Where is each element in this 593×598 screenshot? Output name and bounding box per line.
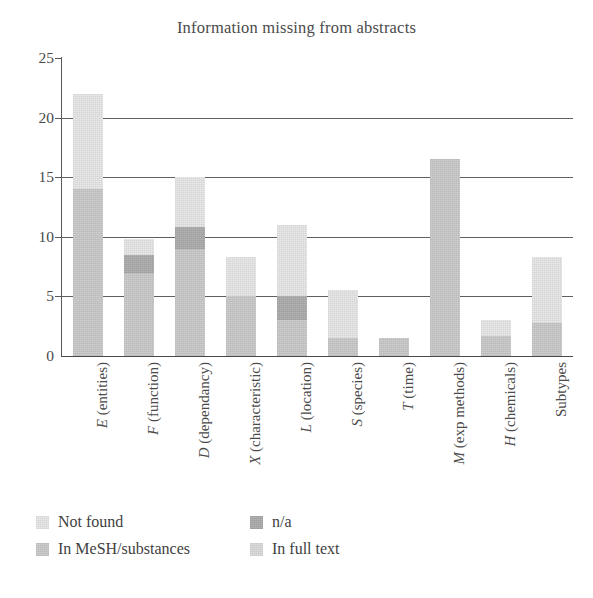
y-tick-label: 10 <box>8 228 54 246</box>
y-tick-label: 0 <box>8 347 54 365</box>
bar-segment-not_found <box>73 94 103 189</box>
y-tick-mark <box>55 177 62 178</box>
bar <box>379 58 409 356</box>
x-axis-label: Subtypes <box>553 362 570 417</box>
x-axis-label: E (entities) <box>94 362 111 428</box>
x-axis-label: S (species) <box>349 362 366 427</box>
bar <box>124 58 154 356</box>
y-tick-mark <box>55 296 62 297</box>
y-tick-label: 20 <box>8 109 54 127</box>
bar-segment-na <box>175 227 205 248</box>
chart-figure: Information missing from abstracts 05101… <box>0 0 593 598</box>
x-axis-label: L (location) <box>298 362 315 432</box>
legend-label: n/a <box>272 513 292 531</box>
chart-title: Information missing from abstracts <box>0 18 593 38</box>
bar-segment-na <box>277 296 307 320</box>
bar <box>226 58 256 356</box>
bar <box>277 58 307 356</box>
y-tick-label: 5 <box>8 287 54 305</box>
x-axis-label: X (characteristic) <box>247 362 264 465</box>
bar-segment-not_found <box>226 257 256 296</box>
x-axis-label: M (exp methods) <box>451 362 468 464</box>
plot-bars <box>62 58 573 356</box>
bar-segment-not_found <box>124 239 154 254</box>
bar <box>430 58 460 356</box>
x-axis-label: F (function) <box>145 362 162 435</box>
bar-segment-in_mesh <box>379 338 409 356</box>
x-axis-label: T (time) <box>400 362 417 411</box>
y-tick-label: 25 <box>8 49 54 67</box>
bar-segment-in_mesh <box>328 338 358 356</box>
bar-segment-not_found <box>328 290 358 338</box>
bar-segment-not_found <box>481 320 511 335</box>
legend-item-in_mesh[interactable]: In MeSH/substances <box>36 540 190 558</box>
y-tick-mark <box>55 118 62 119</box>
bar-segment-not_found <box>277 225 307 297</box>
bar-segment-in_mesh <box>73 189 103 356</box>
bar-segment-in_mesh <box>124 273 154 356</box>
legend-swatch-icon <box>250 516 263 529</box>
y-tick-label: 15 <box>8 168 54 186</box>
bar-segment-in_mesh <box>532 323 562 356</box>
y-tick-mark <box>55 58 62 59</box>
bar-segment-not_found <box>175 177 205 227</box>
legend-label: Not found <box>58 513 123 531</box>
legend-item-not_found[interactable]: Not found <box>36 513 123 531</box>
bar-segment-in_mesh <box>430 159 460 356</box>
bar <box>481 58 511 356</box>
legend-swatch-icon <box>36 543 49 556</box>
bar <box>175 58 205 356</box>
x-axis-line <box>61 356 573 357</box>
legend-swatch-icon <box>250 543 263 556</box>
legend-label: In MeSH/substances <box>58 540 190 558</box>
legend-label: In full text <box>272 540 340 558</box>
bar <box>328 58 358 356</box>
legend-item-na[interactable]: n/a <box>250 513 292 531</box>
bar-segment-not_found <box>532 257 562 323</box>
bar-segment-in_mesh <box>226 296 256 356</box>
bar-segment-na <box>124 255 154 273</box>
bar-segment-in_mesh <box>175 249 205 356</box>
x-axis-label: H (chemicals) <box>502 362 519 447</box>
chart-legend: Not foundIn MeSH/substancesn/aIn full te… <box>36 513 456 573</box>
legend-swatch-icon <box>36 516 49 529</box>
bar <box>73 58 103 356</box>
x-axis-labels: E (entities)F (function)D (dependancy)X … <box>62 362 573 492</box>
x-axis-label: D (dependancy) <box>196 362 213 458</box>
legend-item-in_full_text[interactable]: In full text <box>250 540 340 558</box>
bar-segment-in_mesh <box>277 320 307 356</box>
bar-segment-in_mesh <box>481 336 511 356</box>
y-tick-mark <box>55 237 62 238</box>
bar <box>532 58 562 356</box>
